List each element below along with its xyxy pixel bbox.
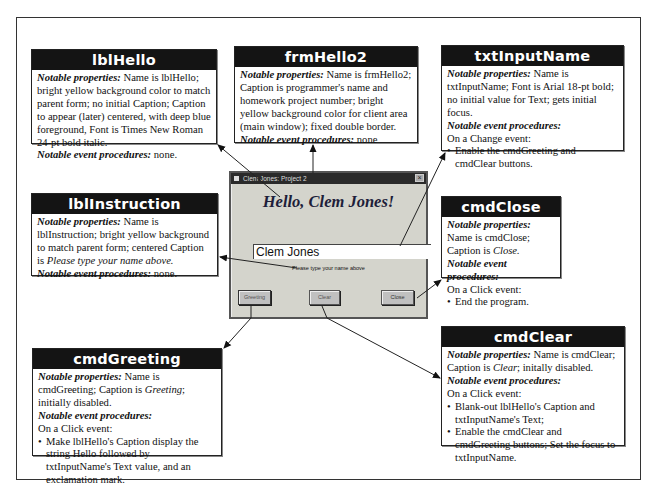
properties-label: Notable properties:: [37, 72, 121, 83]
event-trigger: On a Click event:: [38, 423, 216, 436]
greeting-button[interactable]: Greeting: [238, 290, 271, 305]
properties-caption: Close.: [493, 245, 520, 256]
properties-caption: Greeting: [145, 384, 182, 395]
close-button[interactable]: Close: [381, 290, 414, 305]
callout-lblinstruction: lblInstruction Notable properties: Name …: [31, 193, 218, 276]
form-title: Clem Jones: Project 2: [243, 175, 307, 182]
events-label: Notable event procedures:: [240, 134, 354, 145]
properties-label: Notable properties:: [447, 219, 531, 230]
properties-caption: Please type your name above.: [47, 255, 174, 266]
event-action: End the program.: [447, 296, 555, 309]
system-menu-icon[interactable]: [234, 176, 239, 181]
clear-button[interactable]: Clear: [309, 290, 340, 305]
callout-cmdgreeting: cmdGreeting Notable properties: Name is …: [32, 348, 222, 456]
close-icon[interactable]: ×: [415, 174, 424, 182]
callout-title: frmHello2: [235, 47, 417, 67]
event-action: Enable the cmdClear and cmdGreeting butt…: [447, 426, 619, 465]
callout-cmdclear: cmdClear Notable properties: Name is cmd…: [441, 326, 625, 446]
callout-txtinputname: txtInputName Notable properties: Name is…: [441, 45, 624, 151]
callout-title: cmdGreeting: [33, 349, 221, 369]
callout-title: lblInstruction: [32, 194, 217, 214]
form-titlebar[interactable]: Clem Jones: Project 2 ×: [231, 173, 426, 184]
callout-frmhello2: frmHello2 Notable properties: Name is fr…: [234, 46, 418, 143]
properties-label: Notable properties:: [38, 371, 122, 382]
event-action: Make lblHello's Caption display the stri…: [38, 436, 216, 486]
callout-title: lblHello: [32, 50, 216, 70]
events-label: Notable event procedures:: [447, 258, 507, 282]
event-action: Enable the cmdGreeting and cmdClear butt…: [447, 145, 618, 171]
event-trigger: On a Click event:: [447, 388, 619, 401]
events-label: Notable event procedures:: [447, 120, 561, 131]
callout-title: cmdClose: [442, 197, 560, 217]
events-label: Notable event procedures:: [37, 149, 151, 160]
properties-label: Notable properties:: [240, 69, 324, 80]
callout-lblhello: lblHello Notable properties: Name is lbl…: [31, 49, 217, 144]
events-text: none: [354, 134, 377, 145]
instruction-label: Please type your name above: [231, 265, 426, 271]
form-window: Clem Jones: Project 2 × Hello, Clem Jone…: [229, 171, 428, 319]
properties-text: Name is lblHello; bright yellow backgrou…: [37, 72, 211, 148]
event-trigger: On a Change event:: [447, 133, 618, 146]
events-text: none.: [151, 268, 177, 279]
properties-caption: Clear: [493, 362, 517, 373]
properties-label: Notable properties:: [447, 349, 531, 360]
callout-cmdclose: cmdClose Notable properties: Name is cmd…: [441, 196, 561, 278]
properties-text-end: ; initally disabled.: [517, 362, 593, 373]
callout-title: txtInputName: [442, 46, 623, 66]
events-label: Notable event procedures:: [447, 375, 561, 386]
properties-label: Notable properties:: [37, 216, 121, 227]
properties-label: Notable properties:: [447, 68, 531, 79]
event-trigger: On a Click event:: [447, 284, 555, 297]
events-label: Notable event procedures:: [38, 410, 152, 421]
events-label: Notable event procedures:: [37, 268, 151, 279]
name-input[interactable]: Clem Jones: [253, 244, 431, 259]
events-text: none.: [151, 149, 177, 160]
callout-title: cmdClear: [442, 327, 624, 347]
event-action: Blank-out lblHello's Caption and txtInpu…: [447, 401, 619, 427]
hello-label: Hello, Clem Jones!: [231, 192, 426, 212]
